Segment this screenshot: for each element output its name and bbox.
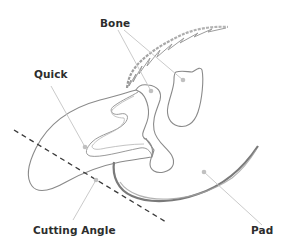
nail-anatomy-diagram: Bone Quick Cutting Angle Pad — [0, 0, 287, 245]
pad-marker — [202, 170, 207, 175]
fur-ridge — [127, 27, 228, 88]
bone-outline-1 — [136, 85, 174, 173]
cutting-angle-label: Cutting Angle — [33, 224, 116, 236]
quick-marker — [83, 145, 88, 150]
diagram-drawing — [0, 0, 287, 245]
cutting-angle-leader — [73, 180, 96, 220]
bone-marker-2 — [181, 78, 186, 83]
nail-outline — [29, 90, 154, 190]
cutting-angle-marker — [94, 178, 99, 183]
pad-label: Pad — [251, 224, 273, 236]
bone-outline-2 — [167, 68, 202, 126]
quick-leader — [51, 86, 85, 147]
quick-label: Quick — [34, 68, 68, 80]
leader-lines — [51, 30, 262, 225]
quick-inner-outline — [92, 96, 144, 149]
quick-outline — [86, 92, 152, 156]
bone-label: Bone — [100, 17, 130, 29]
bone-marker-1 — [149, 89, 154, 94]
pad-leader — [204, 172, 262, 225]
